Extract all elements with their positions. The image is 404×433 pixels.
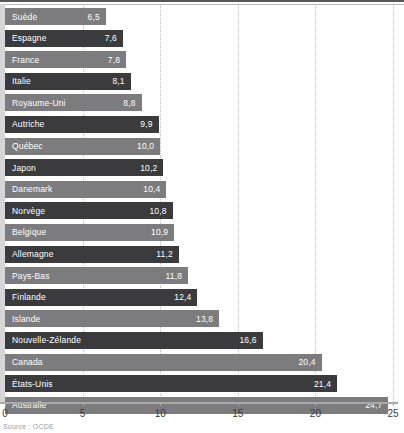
plot-area: Suède6,5Espagne7,6France7,8Italie8,1Roya… bbox=[0, 4, 404, 402]
bar: Danemark10,4 bbox=[5, 181, 166, 198]
bar-row: Allemagne11,2 bbox=[0, 244, 404, 266]
bar-row: Suède6,5 bbox=[0, 6, 404, 28]
bar: Suède6,5 bbox=[5, 8, 106, 25]
bar-value-label: 7,6 bbox=[105, 33, 117, 43]
bar-category-label: Italie bbox=[12, 76, 31, 86]
bar: Pays-Bas11,8 bbox=[5, 267, 188, 284]
bar: Australie24,7 bbox=[5, 397, 388, 414]
bar-category-label: États-Unis bbox=[12, 379, 53, 389]
bar-value-label: 13,8 bbox=[196, 314, 213, 324]
bar-category-label: Pays-Bas bbox=[12, 271, 50, 281]
bar-value-label: 10,9 bbox=[151, 227, 168, 237]
bar-row: Japon10,2 bbox=[0, 157, 404, 179]
bar-category-label: Allemagne bbox=[12, 249, 54, 259]
bar-row: États-Unis21,4 bbox=[0, 373, 404, 395]
bar: Finlande12,4 bbox=[5, 289, 197, 306]
bar-row: Norvège10,8 bbox=[0, 200, 404, 222]
bar-value-label: 10,0 bbox=[137, 141, 154, 151]
bar-row: Espagne7,6 bbox=[0, 28, 404, 50]
top-rule-divider bbox=[0, 0, 404, 2]
bar-row: Canada20,4 bbox=[0, 352, 404, 374]
bar: Nouvelle-Zélande16,6 bbox=[5, 332, 263, 349]
bar-value-label: 10,4 bbox=[143, 184, 160, 194]
bar: Japon10,2 bbox=[5, 159, 163, 176]
bar: Italie8,1 bbox=[5, 73, 131, 90]
bar-category-label: Danemark bbox=[12, 184, 52, 194]
bar-category-label: Nouvelle-Zélande bbox=[12, 335, 81, 345]
bar-category-label: Autriche bbox=[12, 119, 44, 129]
x-tick-5 bbox=[83, 402, 84, 406]
bar-category-label: Espagne bbox=[12, 33, 47, 43]
bar-value-label: 10,2 bbox=[140, 163, 157, 173]
bar: Canada20,4 bbox=[5, 354, 322, 371]
x-tick-label-10: 10 bbox=[155, 408, 166, 419]
bar: Norvège10,8 bbox=[5, 202, 173, 219]
bar-category-label: Québec bbox=[12, 141, 43, 151]
bar: France7,8 bbox=[5, 51, 126, 68]
bar-row: Danemark10,4 bbox=[0, 179, 404, 201]
bar: Belgique10,9 bbox=[5, 224, 174, 241]
bar-value-label: 11,2 bbox=[156, 249, 173, 259]
bar-category-label: France bbox=[12, 55, 39, 65]
bar-value-label: 12,4 bbox=[174, 292, 191, 302]
bar-value-label: 20,4 bbox=[298, 357, 315, 367]
bar-category-label: Islande bbox=[12, 314, 40, 324]
x-tick-25 bbox=[393, 402, 394, 406]
plot-top-border bbox=[0, 4, 404, 5]
bar: Islande13,8 bbox=[5, 310, 219, 327]
bar-chart: Suède6,5Espagne7,6France7,8Italie8,1Roya… bbox=[0, 0, 404, 433]
bar: États-Unis21,4 bbox=[5, 375, 337, 392]
x-tick-label-25: 25 bbox=[387, 408, 398, 419]
bar-row: Islande13,8 bbox=[0, 308, 404, 330]
bar-row: Italie8,1 bbox=[0, 71, 404, 93]
bar-category-label: Suède bbox=[12, 12, 37, 22]
bar-value-label: 11,8 bbox=[166, 271, 183, 281]
bar-value-label: 21,4 bbox=[314, 379, 331, 389]
bar-row: Finlande12,4 bbox=[0, 287, 404, 309]
bar-row: Nouvelle-Zélande16,6 bbox=[0, 330, 404, 352]
source-note: Source : OCDE bbox=[3, 423, 54, 430]
bar-row: Québec10,0 bbox=[0, 136, 404, 158]
bar: Allemagne11,2 bbox=[5, 246, 179, 263]
bar: Autriche9,9 bbox=[5, 116, 159, 133]
bar-value-label: 8,1 bbox=[112, 76, 124, 86]
bar-row: France7,8 bbox=[0, 49, 404, 71]
bar-value-label: 9,9 bbox=[140, 119, 152, 129]
bar-rows: Suède6,5Espagne7,6France7,8Italie8,1Roya… bbox=[0, 6, 404, 416]
x-tick-20 bbox=[315, 402, 316, 406]
x-axis-line bbox=[0, 402, 398, 404]
bar-row: Belgique10,9 bbox=[0, 222, 404, 244]
bar-category-label: Norvège bbox=[12, 206, 45, 216]
x-tick-label-20: 20 bbox=[310, 408, 321, 419]
bar-row: Australie24,7 bbox=[0, 395, 404, 417]
bar-row: Pays-Bas11,8 bbox=[0, 265, 404, 287]
bar-category-label: Finlande bbox=[12, 292, 46, 302]
bar: Royaume-Uni8,8 bbox=[5, 94, 142, 111]
x-tick-label-5: 5 bbox=[80, 408, 86, 419]
x-tick-15 bbox=[238, 402, 239, 406]
bar-category-label: Royaume-Uni bbox=[12, 98, 66, 108]
bar-value-label: 8,8 bbox=[123, 98, 135, 108]
x-tick-label-0: 0 bbox=[2, 408, 8, 419]
bar-value-label: 16,6 bbox=[239, 335, 256, 345]
bar-value-label: 6,5 bbox=[88, 12, 100, 22]
x-tick-label-15: 15 bbox=[232, 408, 243, 419]
bar-category-label: Belgique bbox=[12, 227, 46, 237]
bar-value-label: 10,8 bbox=[149, 206, 166, 216]
bar: Québec10,0 bbox=[5, 138, 160, 155]
bar-value-label: 7,8 bbox=[108, 55, 120, 65]
bar-category-label: Japon bbox=[12, 163, 36, 173]
bar-row: Royaume-Uni8,8 bbox=[0, 92, 404, 114]
bar-row: Autriche9,9 bbox=[0, 114, 404, 136]
bar-category-label: Canada bbox=[12, 357, 43, 367]
x-tick-0 bbox=[5, 402, 6, 406]
x-tick-10 bbox=[160, 402, 161, 406]
bar: Espagne7,6 bbox=[5, 30, 123, 47]
